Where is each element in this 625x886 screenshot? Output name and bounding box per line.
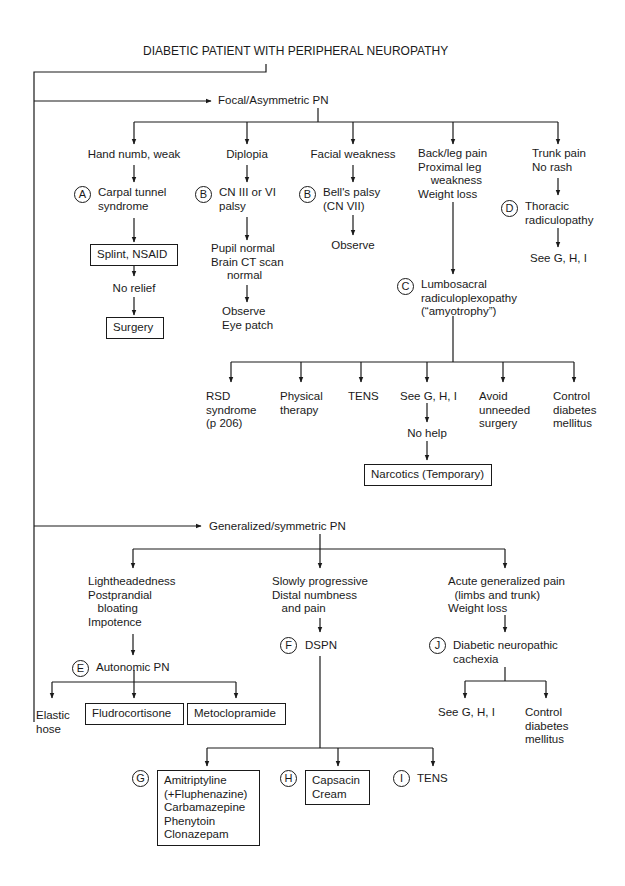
observe-eye-patch-text: Observe Eye patch — [222, 305, 273, 332]
cn-palsy-text: CN III or VI palsy — [219, 186, 276, 213]
marker-h: H — [280, 770, 297, 787]
marker-a: A — [74, 186, 91, 203]
see-ghi-text-focal: See G, H, I — [400, 390, 457, 404]
marker-g: G — [132, 770, 149, 787]
fludrocortisone-box: Fludrocortisone — [85, 703, 184, 725]
diagram-title: DIABETIC PATIENT WITH PERIPHERAL NEUROPA… — [143, 44, 448, 58]
dspn-text: DSPN — [305, 639, 337, 653]
lumbosacral-text: Lumbosacral radiculoplexopathy (“amyotro… — [421, 278, 517, 319]
observe-text: Observe — [323, 239, 383, 253]
marker-e: E — [72, 660, 89, 677]
diplopia-text: Diplopia — [217, 148, 277, 162]
rsd-syndrome-text: RSD syndrome (p 206) — [206, 390, 257, 431]
metoclopramide-box: Metoclopramide — [187, 703, 286, 725]
tens-text-focal: TENS — [348, 390, 379, 404]
facial-weakness-text: Facial weakness — [303, 148, 403, 162]
marker-i: I — [393, 770, 410, 787]
thoracic-radiculopathy-text: Thoracic radiculopathy — [525, 200, 593, 227]
avoid-surgery-text: Avoid unneeded surgery — [479, 390, 530, 431]
marker-b-diplopia: B — [195, 186, 212, 203]
carpal-tunnel-text: Carpal tunnel syndrome — [98, 186, 166, 213]
hand-numb-text: Hand numb, weak — [84, 148, 184, 162]
marker-j: J — [429, 637, 446, 654]
autonomic-pn-text: Autonomic PN — [96, 661, 170, 675]
slowly-progressive-text: Slowly progressive Distal numbness and p… — [272, 575, 368, 616]
pupil-normal-text: Pupil normal Brain CT scan normal — [211, 242, 284, 283]
lightheadedness-text: Lightheadedness Postprandial bloating Im… — [88, 575, 176, 629]
cachexia-text: Diabetic neuropathic cachexia — [453, 639, 558, 666]
focal-pn-label: Focal/Asymmetric PN — [218, 94, 329, 108]
acute-pain-text: Acute generalized pain (limbs and trunk)… — [448, 575, 565, 616]
bells-palsy-text: Bell's palsy (CN VII) — [323, 186, 380, 213]
marker-f: F — [280, 637, 297, 654]
trunk-pain-text: Trunk pain No rash — [532, 147, 586, 174]
narcotics-box: Narcotics (Temporary) — [364, 464, 492, 486]
see-ghi-text-cachexia: See G, H, I — [438, 706, 495, 720]
physical-therapy-text: Physical therapy — [280, 390, 323, 417]
marker-b-bells: B — [299, 186, 316, 203]
no-relief-text: No relief — [94, 282, 174, 296]
see-ghi-text-thoracic: See G, H, I — [530, 252, 587, 266]
no-help-text: No help — [397, 427, 457, 441]
tens-text-dspn: TENS — [417, 772, 448, 786]
capsacin-box: Capsacin Cream — [305, 770, 370, 805]
marker-c: C — [397, 278, 414, 295]
connector-lines — [0, 0, 625, 886]
marker-d: D — [501, 200, 518, 217]
surgery-box: Surgery — [106, 317, 164, 339]
g-medications-box: Amitriptyline (+Fluphenazine) Carbamazep… — [157, 770, 260, 846]
splint-nsaid-box: Splint, NSAID — [90, 244, 178, 266]
control-diabetes-text-cachexia: Control diabetes mellitus — [525, 706, 568, 747]
elastic-hose-text: Elastic hose — [36, 709, 70, 736]
back-leg-pain-text: Back/leg pain Proximal leg weakness Weig… — [418, 147, 487, 201]
control-diabetes-text-focal: Control diabetes mellitus — [553, 390, 596, 431]
generalized-pn-label: Generalized/symmetric PN — [209, 520, 346, 534]
